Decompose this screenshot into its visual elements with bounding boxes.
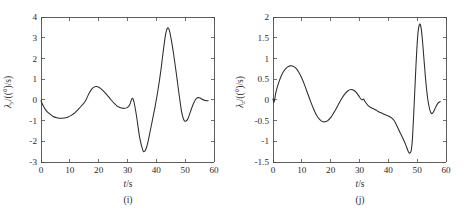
y-tick-label-j: -1.5 [254,157,269,167]
y-tick-label-i: 1 [32,74,37,84]
x-tick-label-i: 60 [209,165,219,175]
y-tick-label-j: 0 [264,95,269,105]
y-tick-label-j: -1 [261,136,269,146]
y-axis-unit-j: /((°)/s) [235,76,246,101]
x-tick-label-j: 20 [326,165,336,175]
plot-frame-i [41,17,214,162]
x-axis-unit-j: /s [358,179,365,189]
x-tick-label-i: 40 [152,165,162,175]
x-tick-label-i: 20 [94,165,104,175]
panel-caption-j: (j) [355,194,364,206]
x-axis-title-i: t/s [124,179,133,189]
y-axis-unit-i: /((°)/s) [3,76,14,101]
y-tick-label-i: -2 [29,136,37,146]
y-tick-label-i: -3 [29,157,37,167]
y-tick-label-i: -1 [29,116,37,126]
x-tick-label-j: 40 [384,165,394,175]
x-tick-label-j: 50 [413,165,423,175]
y-axis-title-j: λz/((°)/s) [235,76,246,109]
y-tick-label-j: 2 [264,12,269,22]
y-tick-label-i: 2 [32,54,37,64]
x-axis-title-j: t/s [356,179,365,189]
x-tick-label-j: 0 [271,165,276,175]
x-axis-unit-i: /s [126,179,133,189]
y-tick-label-i: 4 [32,12,37,22]
chart-panel-j: 0102030405060-1.5-1-0.500.511.52 λz/((°)… [232,0,464,213]
panel-caption-i: (i) [123,194,132,206]
x-tick-label-i: 10 [65,165,75,175]
y-tick-label-j: 1.5 [258,33,270,43]
chart-svg-j: 0102030405060-1.5-1-0.500.511.52 λz/((°)… [232,0,464,213]
data-curve-j [273,24,440,153]
y-tick-label-j: -0.5 [254,116,269,126]
data-curve-i [41,28,208,152]
x-tick-label-j: 30 [355,165,365,175]
x-tick-label-j: 60 [441,165,451,175]
plot-frame-j [273,17,446,162]
x-tick-label-i: 0 [39,165,44,175]
y-axis-title-i: λy/((°)/s) [3,76,14,109]
chart-panel-i: 0102030405060-3-2-101234 λy/((°)/s) t/s … [0,0,232,213]
x-tick-label-i: 50 [181,165,191,175]
y-tick-label-i: 0 [32,95,37,105]
x-tick-label-j: 10 [297,165,307,175]
y-tick-label-i: 3 [32,33,37,43]
y-tick-label-j: 0.5 [258,74,270,84]
y-tick-label-j: 1 [264,54,269,64]
x-tick-label-i: 30 [123,165,133,175]
chart-svg-i: 0102030405060-3-2-101234 λy/((°)/s) t/s … [0,0,232,213]
figure-root: 0102030405060-3-2-101234 λy/((°)/s) t/s … [0,0,464,213]
